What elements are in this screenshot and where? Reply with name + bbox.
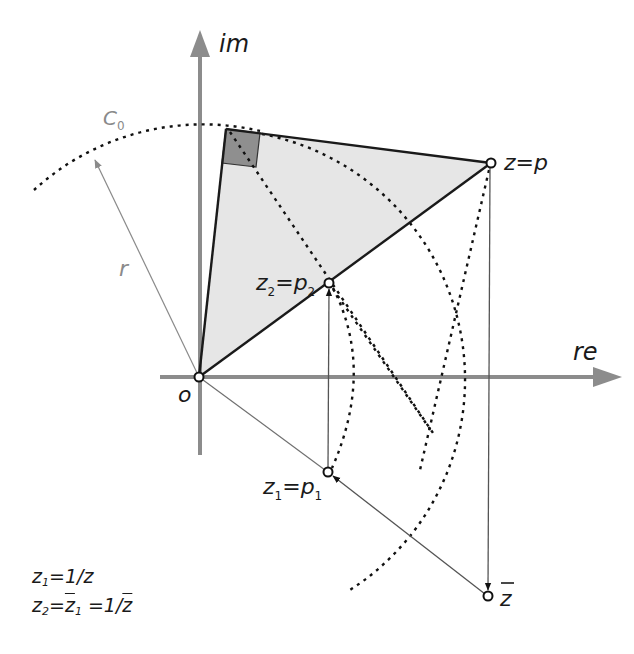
arrow-z1-to-z2	[328, 289, 329, 467]
origin-label: o	[178, 382, 191, 407]
arrow-zbar-to-z1	[333, 476, 485, 594]
point-origin	[195, 373, 204, 382]
formula-z2: z2=z1 =1/z	[32, 594, 132, 618]
inversion-diagram: im re o C0 r z=p z2=p2 z1=p1 z	[0, 0, 634, 654]
line-o-z1	[199, 377, 325, 470]
re-axis-arrowhead-icon	[593, 367, 622, 387]
point-z1	[324, 468, 333, 477]
dotted-z-line	[420, 170, 489, 470]
right-angle-marker	[222, 129, 260, 167]
point-z2-label: z2=p2	[255, 270, 315, 299]
point-zbar	[484, 592, 493, 601]
point-zbar-label: z	[499, 586, 512, 611]
point-z-label: z=p	[503, 150, 548, 175]
circle-c0-label: C0	[103, 106, 125, 133]
point-z1-label: z1=p1	[262, 474, 322, 503]
radius-arrow	[95, 160, 199, 377]
im-axis-arrowhead-icon	[190, 30, 210, 57]
radius-label: r	[119, 256, 130, 281]
formula-z1: z1=1/z	[32, 565, 93, 589]
im-axis-label: im	[219, 30, 249, 58]
point-z	[487, 159, 496, 168]
dotted-z2-line	[333, 289, 432, 432]
point-z2	[325, 279, 334, 288]
re-axis-label: re	[573, 338, 598, 366]
